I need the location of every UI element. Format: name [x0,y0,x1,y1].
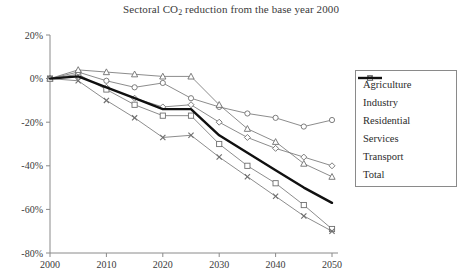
data-point-circle [329,117,334,122]
data-point-square [132,102,137,107]
legend-item-industry[interactable]: Industry [360,93,456,111]
data-point-cross [217,154,222,159]
legend-label: Transport [363,151,403,162]
data-point-square [245,163,250,168]
data-point-triangle [273,139,279,145]
data-point-cross [245,174,250,179]
data-point-diamond [188,102,194,108]
data-point-diamond [244,134,250,140]
data-point-diamond [273,145,279,151]
data-point-diamond [216,119,222,125]
data-point-square [301,202,306,207]
legend-item-residential[interactable]: Residential [360,111,456,129]
legend-item-transport[interactable]: Transport [360,147,456,165]
legend-item-services[interactable]: Services [360,129,456,147]
x-tick-label: 2000 [40,259,60,270]
data-series [47,67,335,234]
data-point-diamond [329,163,335,169]
data-point-triangle [329,174,335,180]
y-tick-label: -60% [21,204,43,215]
legend-label: Total [363,169,384,180]
data-point-diamond [301,154,307,160]
data-point-square [273,181,278,186]
x-tick-label: 2050 [322,259,342,270]
data-point-triangle [301,160,307,166]
x-tick-label: 2010 [96,259,116,270]
data-point-circle [301,124,306,129]
legend-marker-none [356,71,384,85]
legend: AgricultureIndustryResidentialServicesTr… [355,70,457,187]
data-point-square [217,141,222,146]
legend-label: Residential [363,115,410,126]
x-tick-label: 2030 [209,259,229,270]
chart-container: Sectoral CO2 reduction from the base yea… [0,0,462,274]
data-point-cross [132,115,137,120]
data-point-circle [104,78,109,83]
data-point-cross [104,98,109,103]
data-point-cross [273,194,278,199]
x-tick-label: 2040 [266,259,286,270]
y-tick-label: -80% [21,248,43,259]
data-point-circle [245,111,250,116]
legend-item-total[interactable]: Total [360,165,456,183]
tick-labels: 20%0%-20%-40%-60%-80%2000201020202030204… [21,30,342,271]
data-point-triangle [75,67,81,73]
x-tick-label: 2020 [153,259,173,270]
series-line [50,70,332,177]
data-point-square [160,113,165,118]
y-tick-label: -40% [21,160,43,171]
data-point-circle [273,115,278,120]
data-point-square [188,113,193,118]
data-point-circle [132,85,137,90]
data-point-circle [160,80,165,85]
y-tick-label: -20% [21,117,43,128]
axes [46,35,338,257]
legend-label: Services [363,133,399,144]
legend-label: Industry [363,97,398,108]
y-tick-label: 0% [30,73,43,84]
data-point-cross [301,213,306,218]
y-tick-label: 20% [25,30,43,41]
data-point-circle [188,96,193,101]
